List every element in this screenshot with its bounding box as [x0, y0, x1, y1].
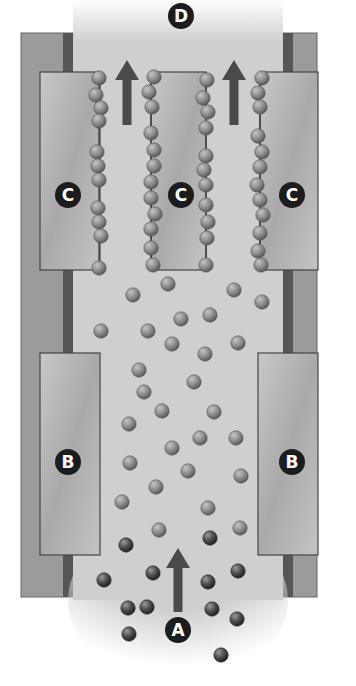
chain-bead	[251, 86, 265, 100]
chain-bead	[148, 207, 162, 221]
chain-bead	[144, 175, 158, 189]
svg-text:C: C	[175, 185, 187, 205]
particle	[161, 277, 175, 291]
chain-bead	[255, 71, 269, 85]
chain-bead	[92, 261, 106, 275]
particle	[203, 308, 217, 322]
particle	[97, 573, 111, 587]
chain-bead	[144, 222, 158, 236]
particle	[174, 312, 188, 326]
plate-c-right	[260, 72, 318, 270]
particle	[165, 441, 179, 455]
chain-bead	[199, 178, 213, 192]
particle	[137, 385, 151, 399]
chain-bead	[199, 198, 213, 212]
particle	[227, 283, 241, 297]
chain-bead	[89, 88, 103, 102]
particle	[207, 405, 221, 419]
chain-bead	[146, 258, 160, 272]
particle	[229, 431, 243, 445]
chain-bead	[147, 159, 161, 173]
chain-bead	[255, 145, 269, 159]
chain-bead	[250, 178, 264, 192]
chain-bead	[196, 91, 210, 105]
particle	[115, 495, 129, 509]
chain-bead	[144, 191, 158, 205]
label-C-middle: C	[168, 182, 194, 208]
chain-bead	[92, 215, 106, 229]
particle	[234, 469, 248, 483]
label-D: D	[168, 3, 194, 29]
particle	[198, 347, 212, 361]
particle	[181, 464, 195, 478]
chain-bead	[92, 173, 106, 187]
chain-bead	[142, 85, 156, 99]
svg-text:C: C	[286, 185, 298, 205]
particle	[201, 501, 215, 515]
particle	[122, 627, 136, 641]
particle	[121, 601, 135, 615]
particle	[231, 564, 245, 578]
particle	[123, 456, 137, 470]
particle	[201, 575, 215, 589]
chain-bead	[94, 101, 108, 115]
particle	[149, 480, 163, 494]
label-C-left: C	[55, 182, 81, 208]
svg-text:A: A	[171, 620, 185, 640]
label-B-left: B	[55, 449, 81, 475]
label-A: A	[165, 617, 191, 643]
chain-bead	[200, 73, 214, 87]
chain-bead	[254, 258, 268, 272]
particle	[155, 404, 169, 418]
chain-bead	[147, 70, 161, 84]
particle-separation-diagram: DCCCBBA	[0, 0, 356, 686]
particle	[187, 375, 201, 389]
chain-bead	[199, 258, 213, 272]
chain-bead	[92, 71, 106, 85]
chain-bead	[91, 201, 105, 215]
svg-text:B: B	[62, 452, 75, 472]
particle	[152, 523, 166, 537]
particle	[205, 602, 219, 616]
chain-bead	[256, 208, 270, 222]
particle	[94, 324, 108, 338]
chain-bead	[144, 126, 158, 140]
chain-bead	[251, 129, 265, 143]
particle	[132, 363, 146, 377]
chain-bead	[251, 244, 265, 258]
label-B-right: B	[279, 449, 305, 475]
particle	[126, 288, 140, 302]
chain-bead	[200, 231, 214, 245]
chain-bead	[199, 149, 213, 163]
chain-bead	[90, 145, 104, 159]
particle	[233, 521, 247, 535]
chain-bead	[91, 159, 105, 173]
chain-bead	[253, 160, 267, 174]
chain-bead	[253, 226, 267, 240]
chain-bead	[253, 100, 267, 114]
particle	[146, 566, 160, 580]
c-plates	[40, 72, 318, 270]
chain-bead	[145, 100, 159, 114]
chain-bead	[144, 241, 158, 255]
particle	[122, 417, 136, 431]
label-C-right: C	[279, 182, 305, 208]
particle	[214, 648, 228, 662]
particle	[165, 337, 179, 351]
svg-text:C: C	[62, 185, 74, 205]
chain-bead	[94, 229, 108, 243]
particle	[119, 538, 133, 552]
chain-bead	[197, 163, 211, 177]
chain-bead	[201, 215, 215, 229]
svg-text:D: D	[174, 6, 188, 26]
plate-c-left	[40, 72, 100, 270]
svg-text:B: B	[286, 452, 299, 472]
chain-bead	[253, 193, 267, 207]
particle	[255, 295, 269, 309]
particle	[231, 336, 245, 350]
chain-bead	[92, 114, 106, 128]
particle	[203, 531, 217, 545]
chain-bead	[199, 121, 213, 135]
chain-bead	[147, 143, 161, 157]
particle	[140, 600, 154, 614]
